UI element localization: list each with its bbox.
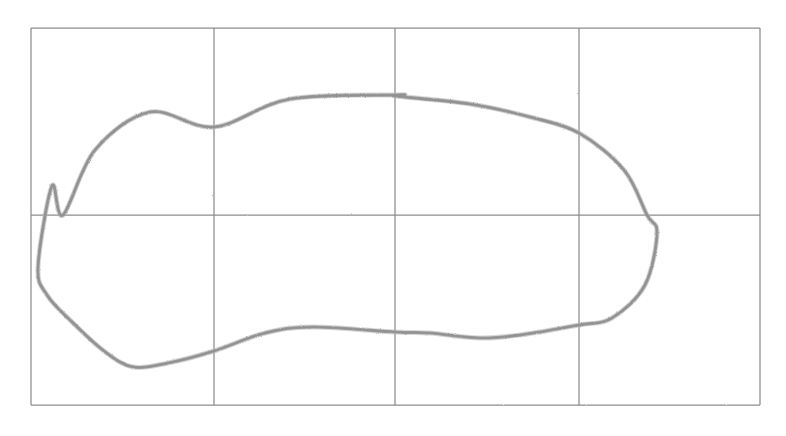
grid-and-curve-figure [0, 0, 786, 436]
closed-curve-group [38, 95, 657, 368]
figure-canvas [0, 0, 786, 436]
